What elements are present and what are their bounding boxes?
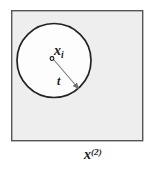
center-point-label-subscript: i xyxy=(61,50,64,60)
axis-label-x2: x(2) xyxy=(84,148,102,162)
radius-label-base: t xyxy=(57,74,60,88)
axis-label-base: x xyxy=(84,147,91,162)
center-point-label: xi xyxy=(54,44,64,60)
center-point-label-base: x xyxy=(54,43,61,58)
radius-label: t xyxy=(57,75,60,87)
figure-canvas xyxy=(0,0,154,172)
figure-container: xi t x(2) xyxy=(0,0,154,172)
axis-label-superscript: (2) xyxy=(91,147,102,157)
